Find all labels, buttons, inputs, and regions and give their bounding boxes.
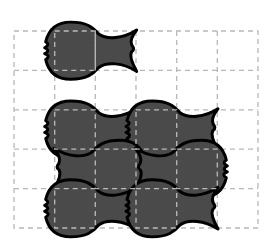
fish-tessellation-diagram: [0, 0, 279, 249]
diagram-canvas: [0, 0, 279, 249]
